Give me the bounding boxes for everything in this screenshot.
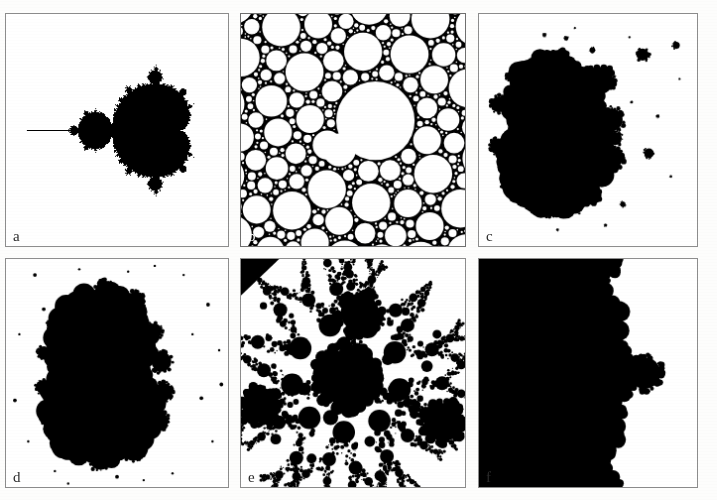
figure-panel-d: d [5, 258, 229, 488]
figure-panel-c: c [478, 13, 698, 247]
figure-panel-f: f [478, 258, 698, 488]
panel-label-d: d [13, 470, 21, 485]
fractal-canvas-a [6, 14, 228, 246]
panel-label-f: f [486, 470, 491, 485]
fractal-canvas-e [241, 259, 465, 487]
fractal-canvas-c [479, 14, 697, 246]
panel-label-b: b [248, 229, 256, 244]
figure-panel-a: a [5, 13, 229, 247]
panel-label-a: a [13, 229, 20, 244]
fractal-canvas-d [6, 259, 228, 487]
figure-plate: a b c d e f [0, 0, 717, 500]
figure-panel-b: b [240, 13, 466, 247]
fractal-canvas-b [241, 14, 465, 246]
panel-label-c: c [486, 229, 493, 244]
figure-panel-e: e [240, 258, 466, 488]
fractal-canvas-f [479, 259, 697, 487]
panel-label-e: e [248, 470, 255, 485]
